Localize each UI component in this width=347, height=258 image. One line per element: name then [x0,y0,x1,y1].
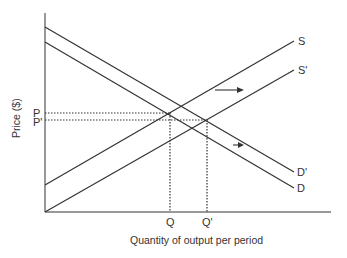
label-q-prime: Q' [202,216,213,228]
demand-shift-arrow-icon [233,142,244,148]
x-axis-title: Quantity of output per period [130,234,263,246]
supply-shift-arrow-icon [215,87,244,93]
demand-curve-d [45,42,294,188]
label-s-prime: S' [298,64,307,76]
label-q: Q [166,216,175,228]
label-p-prime: P' [33,116,42,128]
label-s: S [298,35,305,47]
label-d: D [297,182,305,194]
label-d-prime: D' [297,166,307,178]
y-axis-title: Price ($) [10,98,22,138]
supply-demand-chart: S S' D' D P P' Q Q' Price ($) Quantity o… [0,0,347,258]
